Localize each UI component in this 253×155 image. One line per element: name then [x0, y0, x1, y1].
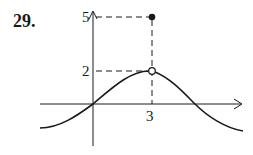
guide-lines — [96, 17, 152, 104]
open-point — [149, 68, 156, 75]
function-curve — [40, 71, 243, 131]
y-axis — [89, 11, 97, 146]
filled-point — [149, 14, 156, 21]
function-graph: 5 2 3 — [0, 0, 253, 155]
x-label-3: 3 — [146, 108, 154, 124]
y-label-2: 2 — [82, 63, 90, 79]
x-axis — [40, 99, 242, 109]
y-label-5: 5 — [82, 9, 90, 25]
